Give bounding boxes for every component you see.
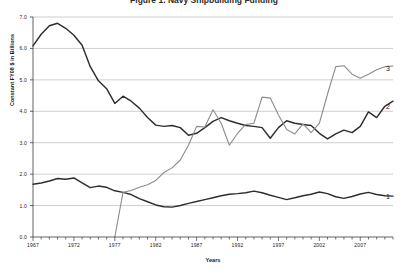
series-line-1 (33, 178, 393, 207)
series-line-2 (33, 23, 393, 139)
plot-area (0, 0, 408, 271)
x-tick-label: 1982 (141, 242, 171, 248)
y-tick-label: 0.0 (3, 234, 27, 240)
y-tick-label: 4.0 (3, 108, 27, 114)
x-tick-label: 1997 (263, 242, 293, 248)
x-tick-label: 2007 (345, 242, 375, 248)
y-tick-label: 2.0 (3, 171, 27, 177)
series-label-1: 1 (386, 193, 396, 200)
series-label-2: 2 (386, 103, 396, 110)
x-tick-label: 1992 (223, 242, 253, 248)
x-tick-label: 2002 (304, 242, 334, 248)
series-label-3: 3 (386, 65, 396, 72)
y-tick-label: 6.0 (3, 45, 27, 51)
series-line-3 (115, 66, 393, 237)
y-tick-label: 7.0 (3, 14, 27, 20)
y-tick-label: 1.0 (3, 203, 27, 209)
x-tick-label: 1977 (100, 242, 130, 248)
x-axis-ticks (33, 237, 393, 241)
series-lines (33, 23, 393, 237)
x-tick-label: 1967 (18, 242, 48, 248)
x-axis-title: Years (33, 257, 393, 263)
x-tick-label: 1987 (182, 242, 212, 248)
y-axis-ticks (30, 17, 33, 237)
chart-figure: Figure 1. Navy Shipbuilding Funding Cons… (0, 0, 408, 271)
gridlines (33, 17, 393, 206)
y-tick-label: 5.0 (3, 77, 27, 83)
x-tick-label: 1972 (59, 242, 89, 248)
y-tick-label: 3.0 (3, 140, 27, 146)
